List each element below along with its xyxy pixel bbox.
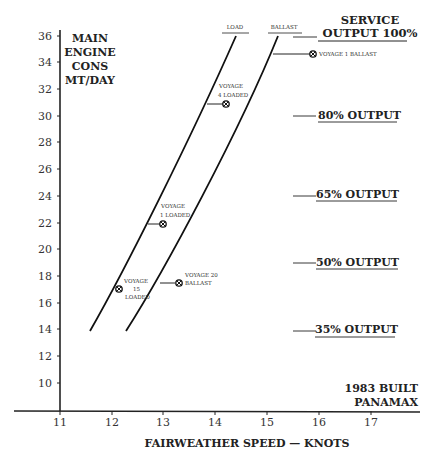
svg-text:15: 15 [260, 416, 274, 429]
svg-text:16: 16 [38, 297, 52, 310]
ballast-curve [126, 36, 278, 331]
svg-text:17: 17 [364, 416, 378, 429]
svg-text:MAIN: MAIN [72, 32, 108, 45]
svg-text:MT/DAY: MT/DAY [65, 74, 115, 87]
svg-text:35% OUTPUT: 35% OUTPUT [315, 323, 399, 336]
svg-text:ENGINE: ENGINE [64, 46, 115, 59]
svg-text:VOYAGE: VOYAGE [123, 278, 148, 284]
svg-text:16: 16 [312, 416, 326, 429]
svg-text:15: 15 [133, 286, 140, 292]
svg-text:VOYAGE: VOYAGE [160, 203, 185, 209]
x-axis-label: FAIRWEATHER SPEED — KNOTS [145, 437, 350, 450]
svg-text:50% OUTPUT: 50% OUTPUT [316, 256, 400, 269]
output-annotations: SERVICE OUTPUT 100% 80% OUTPUT 65% OUTPU… [293, 13, 417, 337]
svg-text:1 LOADED: 1 LOADED [160, 212, 191, 218]
ballast-label: BALLAST [271, 24, 298, 30]
svg-text:VOYAGE: VOYAGE [218, 83, 243, 89]
x-axis [14, 411, 420, 412]
svg-text:20: 20 [38, 243, 52, 256]
svg-text:14: 14 [38, 323, 52, 336]
svg-text:OUTPUT 100%: OUTPUT 100% [323, 26, 418, 40]
svg-text:VOYAGE 1 BALLAST: VOYAGE 1 BALLAST [318, 51, 377, 57]
svg-text:65% OUTPUT: 65% OUTPUT [316, 188, 400, 201]
svg-text:32: 32 [38, 83, 52, 96]
svg-text:SERVICE: SERVICE [341, 13, 400, 27]
svg-text:36: 36 [38, 30, 52, 43]
svg-text:CONS: CONS [72, 60, 108, 73]
chart: 36 34 32 30 28 26 24 22 20 18 16 14 12 1… [0, 0, 435, 460]
svg-text:30: 30 [38, 110, 52, 123]
svg-text:26: 26 [38, 163, 52, 176]
svg-text:14: 14 [208, 416, 222, 429]
svg-text:24: 24 [38, 190, 52, 203]
svg-text:4 LOADED: 4 LOADED [218, 92, 249, 98]
svg-text:1983 BUILT: 1983 BUILT [344, 382, 418, 395]
svg-text:12: 12 [38, 350, 52, 363]
svg-text:LOADED: LOADED [125, 294, 151, 300]
y-ticks: 36 34 32 30 28 26 24 22 20 18 16 14 12 1… [38, 30, 60, 390]
svg-text:18: 18 [38, 270, 52, 283]
svg-text:12: 12 [105, 416, 119, 429]
x-ticks: 11 12 13 14 15 16 17 [53, 411, 378, 429]
svg-text:34: 34 [38, 56, 52, 69]
svg-text:PANAMAX: PANAMAX [354, 396, 418, 409]
svg-text:22: 22 [38, 217, 52, 230]
svg-text:BALLAST: BALLAST [185, 280, 212, 286]
svg-text:10: 10 [38, 377, 52, 390]
load-label: LOAD [227, 24, 244, 30]
svg-text:13: 13 [156, 416, 170, 429]
svg-text:28: 28 [38, 136, 52, 149]
svg-text:VOYAGE 20: VOYAGE 20 [184, 272, 218, 278]
svg-text:80% OUTPUT: 80% OUTPUT [318, 109, 402, 122]
y-axis-label: MAIN ENGINE CONS MT/DAY [64, 32, 115, 87]
vessel-note: 1983 BUILT PANAMAX [344, 382, 418, 409]
svg-text:11: 11 [53, 416, 67, 429]
